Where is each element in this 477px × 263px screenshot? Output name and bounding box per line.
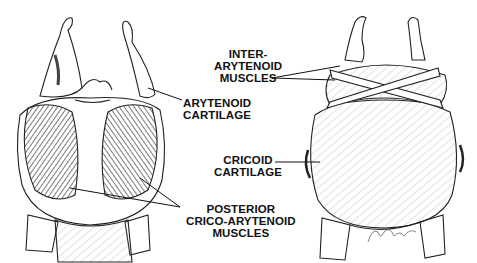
label-posterior-crico-arytenoid-muscles: POSTERIOR CRICO-ARYTENOID MUSCLES <box>186 203 296 239</box>
right-larynx-drawing <box>306 17 463 260</box>
label-arytenoid-cartilage: ARYTENOID CARTILAGE <box>183 97 251 121</box>
anatomy-figure: INTER- ARYTENOID MUSCLES ARYTENOID CARTI… <box>0 0 477 263</box>
label-line: INTER- <box>214 48 282 60</box>
label-line: CARTILAGE <box>214 166 282 178</box>
left-larynx-drawing <box>17 18 164 262</box>
label-line: CARTILAGE <box>183 109 251 121</box>
label-line: MUSCLES <box>186 227 296 239</box>
label-cricoid-cartilage: CRICOID CARTILAGE <box>214 154 282 178</box>
label-line: ARYTENOID <box>183 97 251 109</box>
label-line: ARYTENOID <box>214 60 282 72</box>
label-line: CRICOID <box>214 154 282 166</box>
label-line: CRICO-ARYTENOID <box>186 215 296 227</box>
label-inter-arytenoid-muscles: INTER- ARYTENOID MUSCLES <box>214 48 282 84</box>
label-line: MUSCLES <box>214 72 282 84</box>
label-line: POSTERIOR <box>186 203 296 215</box>
